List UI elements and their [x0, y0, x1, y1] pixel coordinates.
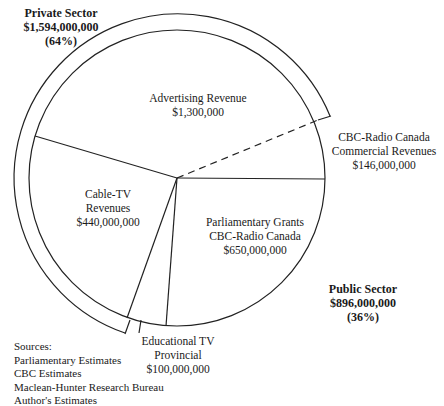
cbc-commercial-label: CBC-Radio Canada Commercial Revenues $14… — [324, 130, 444, 172]
cable-tv-label: Cable-TV Revenues $440,000,000 — [58, 187, 158, 229]
private-sector-label: Private Sector $1,594,000,000 (64%) — [2, 6, 120, 48]
divider-advertising-cable — [35, 136, 177, 178]
source-item: Maclean-Hunter Research Bureau — [14, 381, 164, 395]
advertising-label: Advertising Revenue $1,300,000 — [138, 91, 258, 119]
source-item: CBC Estimates — [14, 367, 164, 381]
educational-leader-line — [139, 320, 141, 333]
bracket-tick-bottom — [125, 320, 130, 334]
source-item: Parliamentary Estimates — [14, 354, 164, 368]
parliamentary-label: Parliamentary Grants CBC-Radio Canada $6… — [190, 215, 320, 257]
public-sector-label: Public Sector $896,000,000 (36%) — [318, 282, 408, 324]
bracket-tick-top — [318, 116, 331, 120]
divider-advertising-cbc-dashed — [177, 120, 318, 178]
divider-parliamentary-cbc — [177, 178, 325, 179]
divider-educational-parliamentary — [166, 178, 177, 326]
sources-heading: Sources: — [14, 340, 164, 354]
private-sector-bracket-arc — [14, 14, 330, 333]
source-item: Author's Estimates — [14, 394, 164, 406]
sources-list: Sources: Parliamentary Estimates CBC Est… — [14, 340, 164, 406]
